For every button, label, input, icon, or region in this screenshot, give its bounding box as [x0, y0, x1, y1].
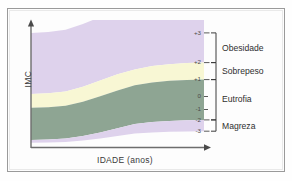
category-label-obesidade: Obesidade — [222, 44, 264, 53]
y-axis-label: IMC — [23, 59, 33, 99]
bracket-magreza — [211, 120, 216, 131]
tick-label-plus2: +2 — [187, 59, 201, 65]
z-score-tick-axis — [204, 33, 210, 131]
category-label-magreza: Magreza — [222, 122, 255, 131]
figure-root: IMC IDADE (anos) +3 +2 +1 0 -1 -2 -3 Obe… — [0, 0, 292, 181]
bracket-obesidade — [211, 33, 216, 63]
chart-canvas — [0, 0, 292, 181]
bracket-sobrepeso — [211, 63, 216, 80]
chart-plot-area: IMC IDADE (anos) +3 +2 +1 0 -1 -2 -3 Obe… — [0, 0, 292, 181]
x-axis — [31, 144, 211, 150]
tick-label-zero: 0 — [187, 93, 201, 99]
tick-label-minus2: -2 — [187, 117, 201, 123]
tick-label-minus3: -3 — [187, 128, 201, 134]
category-bracket-group — [211, 33, 216, 131]
x-axis-label: IDADE (anos) — [60, 155, 190, 165]
bracket-eutrofia — [211, 80, 216, 120]
band-group — [31, 0, 204, 143]
category-label-sobrepeso: Sobrepeso — [222, 67, 264, 76]
tick-label-plus1: +1 — [187, 76, 201, 82]
tick-label-plus3: +3 — [187, 30, 201, 36]
tick-label-minus1: -1 — [187, 106, 201, 112]
category-label-eutrofia: Eutrofia — [222, 95, 252, 104]
